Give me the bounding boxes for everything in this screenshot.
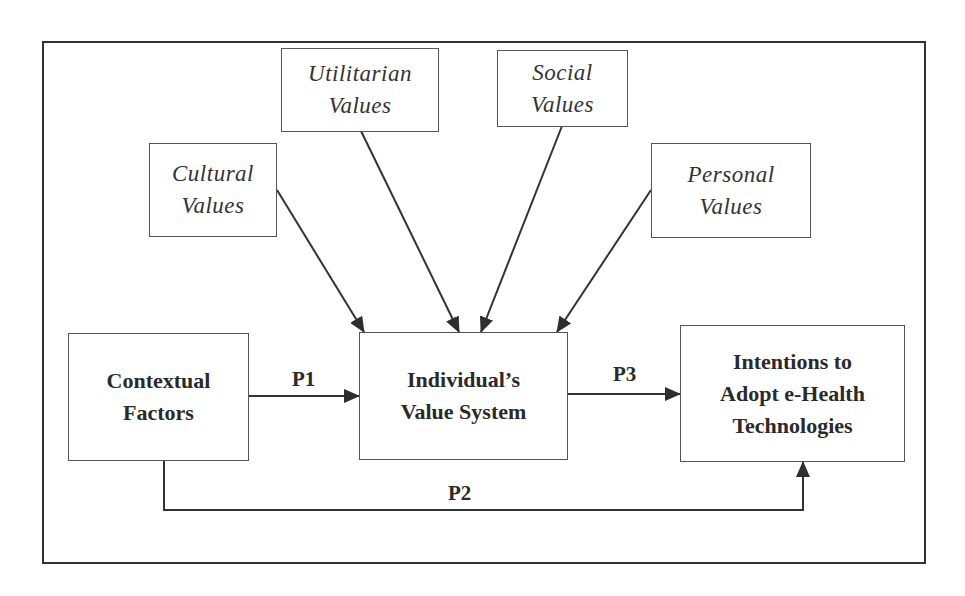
intentions-box: Intentions to Adopt e-Health Technologie… — [680, 325, 905, 462]
social-values-line-2: Values — [531, 89, 594, 121]
path-label-p3: P3 — [613, 362, 636, 387]
utilitarian-values-line-2: Values — [328, 90, 391, 122]
intentions-line-1: Intentions to — [733, 346, 852, 378]
contextual-factors-box: Contextual Factors — [68, 333, 249, 461]
path-label-p1: P1 — [292, 367, 315, 392]
path-label-p2: P2 — [448, 481, 471, 506]
intentions-line-2: Adopt e-Health — [720, 378, 865, 410]
intentions-line-3: Technologies — [732, 410, 852, 442]
contextual-factors-line-1: Contextual — [107, 365, 211, 397]
diagram-frame — [42, 41, 926, 564]
utilitarian-values-box: Utilitarian Values — [281, 48, 439, 132]
contextual-factors-line-2: Factors — [123, 397, 194, 429]
cultural-values-line-1: Cultural — [172, 158, 254, 190]
individual-value-system-line-1: Individual’s — [407, 364, 520, 396]
personal-values-line-2: Values — [699, 191, 762, 223]
utilitarian-values-line-1: Utilitarian — [308, 58, 412, 90]
personal-values-line-1: Personal — [687, 159, 774, 191]
social-values-box: Social Values — [497, 50, 628, 127]
personal-values-box: Personal Values — [651, 143, 811, 238]
social-values-line-1: Social — [532, 57, 593, 89]
individual-value-system-line-2: Value System — [401, 396, 527, 428]
individual-value-system-box: Individual’s Value System — [359, 332, 568, 460]
cultural-values-box: Cultural Values — [149, 143, 277, 237]
cultural-values-line-2: Values — [181, 190, 244, 222]
